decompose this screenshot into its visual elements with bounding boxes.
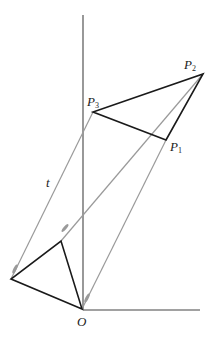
label-p3: P3 (87, 95, 99, 110)
label-p1: P1 (170, 140, 182, 155)
translation-diagram (0, 0, 209, 341)
label-t: t (46, 176, 50, 189)
arrowhead-b (61, 223, 70, 233)
arrowhead-a (11, 264, 18, 274)
arrowhead-o (83, 293, 90, 303)
label-p2: P2 (184, 58, 196, 73)
label-origin: O (77, 315, 86, 328)
translation-line-a-p3 (11, 112, 93, 279)
translation-line-o-p1 (82, 140, 166, 309)
translated-triangle (93, 74, 203, 140)
original-triangle (11, 241, 82, 309)
